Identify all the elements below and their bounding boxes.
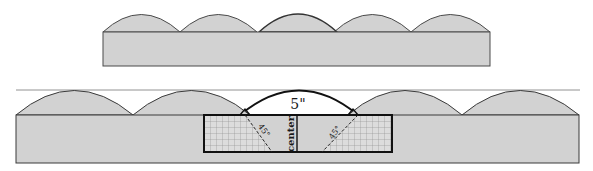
bottom-figure: 5" center 45° 45° (16, 90, 580, 163)
top-arch-3-highlighted (259, 14, 337, 32)
top-arches (103, 14, 490, 32)
bottom-arch-1 (16, 91, 133, 116)
gridded-box (204, 109, 392, 152)
diagram-canvas: 5" center 45° 45° (0, 0, 593, 171)
top-figure (103, 14, 490, 66)
center-label: center (285, 115, 296, 152)
top-band (103, 32, 490, 66)
bottom-arch-5 (462, 91, 579, 116)
bottom-arch-2 (133, 91, 250, 116)
top-arch-2 (180, 15, 257, 33)
top-arch-4 (334, 15, 411, 33)
top-arch-5 (411, 15, 490, 33)
bottom-arch-4 (348, 91, 462, 116)
arch-width-label: 5" (290, 96, 305, 112)
top-arch-1 (103, 15, 180, 33)
